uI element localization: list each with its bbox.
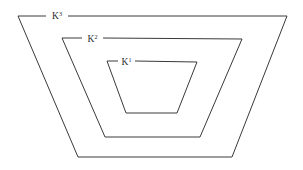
diagram-canvas: K3 K2 K1 — [0, 0, 303, 170]
region-label-k3-exponent: 3 — [59, 10, 62, 17]
region-label-k2-exponent: 2 — [94, 33, 97, 40]
region-label-k1-exponent: 1 — [128, 56, 131, 63]
figure-background — [0, 0, 303, 170]
nested-trapezoids-figure: K3 K2 K1 — [0, 0, 303, 170]
